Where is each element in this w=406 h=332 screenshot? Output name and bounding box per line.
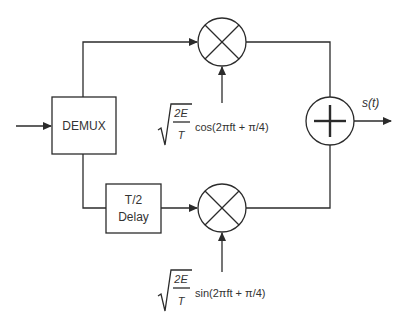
delay-block: T/2 Delay	[106, 184, 161, 233]
delay-label-line2: Delay	[118, 210, 149, 224]
upper-branch-line	[83, 42, 197, 97]
carrier-top-function: cos(2πft + π/4)	[195, 121, 269, 133]
upper-output-line	[246, 42, 330, 97]
carrier-bottom-formula: 2E T sin(2πft + π/4)	[158, 270, 266, 311]
delay-label-line1: T/2	[125, 193, 143, 207]
output-label: s(t)	[362, 96, 379, 110]
carrier-bottom-function: sin(2πft + π/4)	[195, 287, 266, 299]
demux-block: DEMUX	[52, 97, 116, 154]
lower-output-line	[246, 145, 330, 208]
qpsk-modulator-diagram: DEMUX T/2 Delay s(t) 2E	[0, 0, 406, 332]
lower-branch-line	[83, 154, 106, 208]
carrier-bottom-denominator: T	[178, 295, 186, 307]
demux-label: DEMUX	[62, 119, 105, 133]
multiplier-top	[198, 18, 246, 66]
carrier-bottom-numerator: 2E	[173, 273, 188, 285]
multiplier-bottom	[198, 184, 246, 232]
carrier-top-formula: 2E T cos(2πft + π/4)	[158, 104, 269, 145]
carrier-top-numerator: 2E	[173, 107, 188, 119]
summer	[306, 97, 354, 145]
carrier-top-denominator: T	[178, 129, 186, 141]
